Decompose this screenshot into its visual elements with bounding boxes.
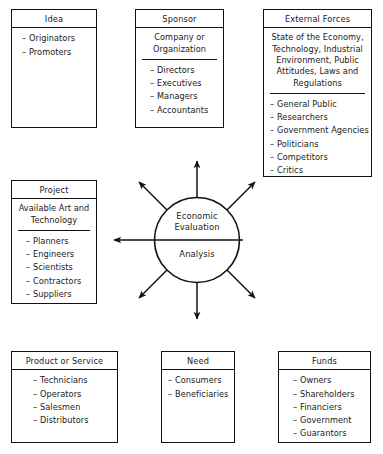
bullet-dash: – — [33, 414, 40, 427]
subtitle-line: Available Art and — [17, 203, 91, 214]
list-item: –Planners — [26, 235, 96, 248]
box-project-subtitle: Available Art and Technology — [12, 199, 96, 230]
subtitle-line: Organization — [141, 44, 218, 55]
bullet-dash: – — [293, 414, 300, 427]
bullet-dash: – — [150, 77, 157, 90]
bullet-dash: – — [270, 98, 277, 111]
subtitle-line: Technology, Industrial — [269, 44, 366, 55]
list-item-label: General Public — [277, 99, 337, 109]
list-item-label: Critics — [277, 165, 303, 175]
box-sponsor: Sponsor Company or Organization –Directo… — [135, 9, 224, 128]
list-item: –Government — [293, 414, 370, 427]
list-item-label: Researchers — [277, 112, 328, 122]
list-item: –Scientists — [26, 261, 96, 274]
list-item: –Distributors — [33, 414, 117, 427]
box-external-forces-subtitle: State of the Economy, Technology, Indust… — [264, 28, 371, 93]
list-item: –Managers — [150, 90, 223, 103]
subtitle-line: Technology — [17, 215, 91, 226]
list-item-label: Government — [300, 415, 352, 425]
bullet-dash: – — [293, 427, 300, 440]
list-item: –Guarantors — [293, 427, 370, 440]
list-item: –Contractors — [26, 275, 96, 288]
box-sponsor-title: Sponsor — [136, 10, 223, 28]
bullet-dash: – — [26, 275, 33, 288]
bullet-dash: – — [270, 164, 277, 177]
bullet-dash: – — [26, 288, 33, 301]
list-item-label: Financiers — [300, 402, 342, 412]
subtitle-line: Company or — [141, 32, 218, 43]
box-funds-title: Funds — [279, 352, 370, 370]
box-funds-list: –Owners –Shareholders –Financiers –Gover… — [279, 370, 370, 440]
list-item: –Owners — [293, 374, 370, 387]
list-item-label: Consumers — [175, 375, 221, 385]
bullet-dash: – — [150, 104, 157, 117]
list-item-label: Planners — [33, 236, 69, 246]
list-item-label: Politicians — [277, 139, 319, 149]
bullet-dash: – — [26, 248, 33, 261]
box-external-forces-title: External Forces — [264, 10, 371, 28]
list-item: –Originators — [22, 32, 96, 45]
box-funds: Funds –Owners –Shareholders –Financiers … — [278, 351, 371, 443]
list-item: –Competitors — [270, 151, 371, 164]
bullet-dash: – — [150, 64, 157, 77]
list-item: –Salesmen — [33, 401, 117, 414]
bullet-dash: – — [293, 374, 300, 387]
list-item: –Government Agencies — [270, 124, 371, 137]
box-idea-list: –Originators –Promoters — [12, 28, 96, 59]
bullet-dash: – — [33, 388, 40, 401]
list-item-label: Salesmen — [40, 402, 80, 412]
list-item: –Financiers — [293, 401, 370, 414]
box-external-forces: External Forces State of the Economy, Te… — [263, 9, 372, 177]
box-need-list: –Consumers –Beneficiaries — [162, 370, 234, 401]
box-idea: Idea –Originators –Promoters — [11, 9, 97, 128]
box-product-or-service-title: Product or Service — [12, 352, 117, 370]
list-item: –Politicians — [270, 138, 371, 151]
list-item-label: Government Agencies — [277, 125, 369, 135]
list-item-label: Accountants — [157, 105, 208, 115]
list-item: –Engineers — [26, 248, 96, 261]
bullet-dash: – — [270, 124, 277, 137]
bullet-dash: – — [168, 388, 175, 401]
list-item: –Consumers — [168, 374, 234, 387]
bullet-dash: – — [26, 235, 33, 248]
list-item: –Critics — [270, 164, 371, 177]
subtitle-line: Attitudes, Laws and — [269, 66, 366, 77]
list-item: –Executives — [150, 77, 223, 90]
bullet-dash: – — [150, 90, 157, 103]
bullet-dash: – — [168, 374, 175, 387]
list-item-label: Owners — [300, 375, 331, 385]
bullet-dash: – — [22, 32, 29, 45]
box-project-title: Project — [12, 181, 96, 199]
list-item: –Accountants — [150, 104, 223, 117]
bullet-dash: – — [270, 111, 277, 124]
bullet-dash: – — [293, 388, 300, 401]
list-item-label: Suppliers — [33, 289, 71, 299]
list-item-label: Guarantors — [300, 428, 346, 438]
bullet-dash: – — [33, 401, 40, 414]
list-item: –Directors — [150, 64, 223, 77]
list-item-label: Engineers — [33, 249, 74, 259]
list-item-label: Managers — [157, 91, 198, 101]
subtitle-line: Environment, Public — [269, 55, 366, 66]
box-sponsor-subtitle: Company or Organization — [136, 28, 223, 59]
box-project: Project Available Art and Technology –Pl… — [11, 180, 97, 304]
center-label-line3: Analysis — [157, 249, 237, 260]
list-item: –Beneficiaries — [168, 388, 234, 401]
list-item: –Technicians — [33, 374, 117, 387]
list-item-label: Shareholders — [300, 389, 355, 399]
list-item-label: Beneficiaries — [175, 389, 228, 399]
subtitle-line: State of the Economy, — [269, 32, 366, 43]
subtitle-line: Regulations — [269, 78, 366, 89]
bullet-dash: – — [33, 374, 40, 387]
list-item: –General Public — [270, 98, 371, 111]
center-label-upper: Economic Evaluation — [157, 211, 237, 234]
bullet-dash: – — [22, 46, 29, 59]
list-item: –Shareholders — [293, 388, 370, 401]
box-idea-title: Idea — [12, 10, 96, 28]
list-item-label: Operators — [40, 389, 81, 399]
list-item-label: Technicians — [40, 375, 88, 385]
center-label-line1: Economic — [157, 211, 237, 222]
list-item-label: Distributors — [40, 415, 89, 425]
box-need: Need –Consumers –Beneficiaries — [161, 351, 235, 443]
center-label-line2: Evaluation — [157, 222, 237, 233]
